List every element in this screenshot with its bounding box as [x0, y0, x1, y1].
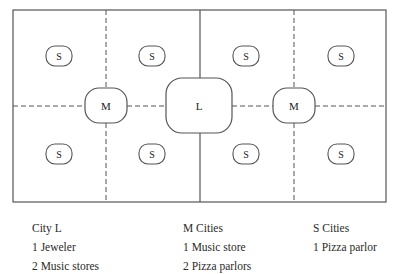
small-city-s-5: S	[46, 144, 72, 164]
legend-city-l-item: 1 Jeweler	[32, 238, 99, 257]
svg-text:M: M	[289, 100, 299, 112]
legend-m-cities-item: 2 Pizza parlors	[183, 257, 251, 274]
medium-city-m-left: M	[85, 88, 127, 123]
legend-m-cities: M Cities 1 Music store 2 Pizza parlors	[183, 219, 251, 274]
legend-m-cities-item: 1 Music store	[183, 238, 251, 257]
svg-text:S: S	[149, 149, 155, 160]
svg-text:S: S	[149, 51, 155, 62]
svg-text:S: S	[338, 51, 344, 62]
small-city-s-7: S	[233, 144, 259, 164]
legend-city-l-title: City L	[32, 219, 99, 238]
small-city-s-3: S	[233, 46, 259, 66]
legend-city-l: City L 1 Jeweler 2 Music stores	[32, 219, 99, 274]
svg-text:S: S	[56, 149, 62, 160]
svg-text:M: M	[101, 100, 111, 112]
svg-text:S: S	[243, 149, 249, 160]
legend-city-l-item: 2 Music stores	[32, 257, 99, 274]
medium-city-m-right: M	[273, 88, 315, 123]
legend-m-cities-title: M Cities	[183, 219, 251, 238]
small-city-s-8: S	[328, 144, 354, 164]
svg-text:S: S	[243, 51, 249, 62]
small-city-s-4: S	[328, 46, 354, 66]
market-area-diagram: L M M S S S S S S	[0, 0, 393, 205]
legend-s-cities-title: S Cities	[313, 219, 377, 238]
svg-text:S: S	[338, 149, 344, 160]
small-city-s-6: S	[139, 144, 165, 164]
large-city-l: L	[166, 78, 232, 133]
small-city-s-1: S	[46, 46, 72, 66]
legend-s-cities: S Cities 1 Pizza parlor	[313, 219, 377, 257]
svg-text:S: S	[56, 51, 62, 62]
small-city-s-2: S	[139, 46, 165, 66]
svg-text:L: L	[196, 100, 203, 112]
legend-s-cities-item: 1 Pizza parlor	[313, 238, 377, 257]
